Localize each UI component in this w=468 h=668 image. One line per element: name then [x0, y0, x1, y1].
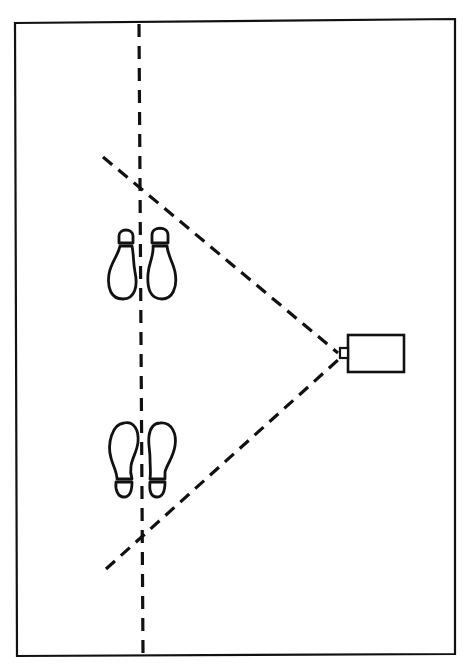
diagram-svg	[0, 0, 468, 668]
diagram-canvas	[0, 0, 468, 668]
camera-icon	[340, 335, 404, 372]
camera-lens	[340, 348, 348, 358]
camera-body	[348, 335, 404, 372]
